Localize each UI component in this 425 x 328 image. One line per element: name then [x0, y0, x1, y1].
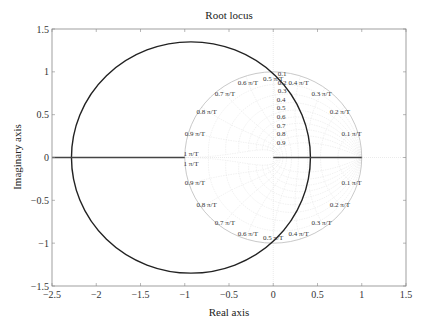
- svg-text:0.9: 0.9: [277, 139, 286, 147]
- svg-text:0.9 π/T: 0.9 π/T: [185, 130, 206, 138]
- svg-text:0.7 π/T: 0.7 π/T: [215, 90, 236, 98]
- svg-text:0.5: 0.5: [277, 104, 286, 112]
- axis-ticks: −2.5−2−1.5−1−0.500.511.51.510.50−0.5−1−1…: [31, 24, 412, 301]
- y-axis-label: Imaginary axis: [11, 124, 23, 190]
- svg-text:−2: −2: [91, 289, 102, 300]
- svg-text:0.6 π/T: 0.6 π/T: [238, 230, 259, 238]
- svg-text:−1.5: −1.5: [31, 281, 49, 292]
- svg-text:−1.5: −1.5: [131, 289, 149, 300]
- svg-text:0.8 π/T: 0.8 π/T: [197, 108, 218, 116]
- svg-text:0: 0: [271, 289, 276, 300]
- svg-text:0.4 π/T: 0.4 π/T: [289, 79, 310, 87]
- x-axis-label: Real axis: [209, 306, 250, 318]
- svg-text:1 π/T: 1 π/T: [183, 160, 199, 168]
- chart-title: Root locus: [205, 9, 252, 21]
- svg-text:0.3 π/T: 0.3 π/T: [311, 219, 332, 227]
- svg-text:0: 0: [44, 152, 49, 163]
- svg-text:0.1 π/T: 0.1 π/T: [341, 179, 362, 187]
- svg-text:0.2: 0.2: [278, 79, 287, 87]
- svg-text:1 π/T: 1 π/T: [183, 150, 199, 158]
- svg-text:0.6: 0.6: [277, 113, 286, 121]
- svg-text:0.7 π/T: 0.7 π/T: [215, 219, 236, 227]
- svg-text:0.4: 0.4: [277, 96, 286, 104]
- svg-text:0.5 π/T: 0.5 π/T: [263, 234, 284, 242]
- svg-text:0.5: 0.5: [37, 109, 50, 120]
- svg-text:1: 1: [359, 289, 364, 300]
- svg-text:0.4 π/T: 0.4 π/T: [289, 230, 310, 238]
- svg-text:0.9 π/T: 0.9 π/T: [185, 179, 206, 187]
- svg-text:0.7: 0.7: [277, 122, 286, 130]
- svg-text:1.5: 1.5: [400, 289, 413, 300]
- svg-text:0.3: 0.3: [278, 87, 287, 95]
- svg-text:0.5: 0.5: [311, 289, 324, 300]
- svg-text:−0.5: −0.5: [220, 289, 238, 300]
- svg-text:−0.5: −0.5: [31, 195, 49, 206]
- svg-text:−1: −1: [38, 238, 49, 249]
- svg-text:0.2 π/T: 0.2 π/T: [330, 201, 351, 209]
- svg-text:0.8 π/T: 0.8 π/T: [197, 201, 218, 209]
- svg-text:0.1: 0.1: [278, 70, 287, 78]
- svg-text:0.1 π/T: 0.1 π/T: [341, 130, 362, 138]
- svg-text:1.5: 1.5: [37, 24, 50, 35]
- svg-text:0.2 π/T: 0.2 π/T: [330, 108, 351, 116]
- svg-text:−1: −1: [179, 289, 190, 300]
- svg-text:0.3 π/T: 0.3 π/T: [311, 90, 332, 98]
- svg-text:0.8: 0.8: [277, 130, 286, 138]
- svg-text:1: 1: [44, 66, 49, 77]
- root-locus-chart: −2.5−2−1.5−1−0.500.511.51.510.50−0.5−1−1…: [0, 0, 425, 328]
- svg-text:0.6 π/T: 0.6 π/T: [238, 79, 259, 87]
